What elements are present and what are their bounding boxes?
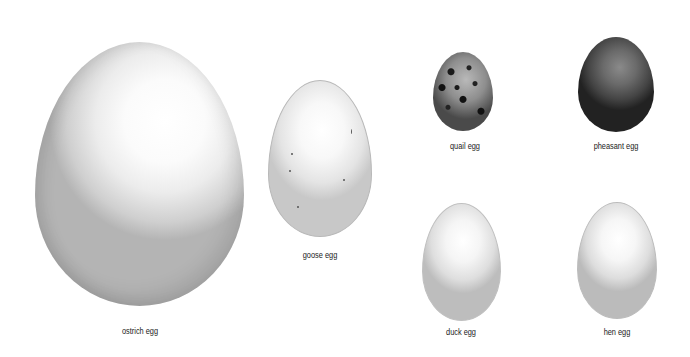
duck-egg-label: duck egg [446, 327, 476, 337]
speckle [291, 153, 293, 155]
goose-egg-image [268, 80, 372, 237]
duck-egg-image [422, 203, 501, 321]
pheasant-egg-label: pheasant egg [594, 141, 639, 151]
quail-egg-label: quail egg [450, 141, 480, 151]
quail-egg-image [433, 52, 493, 131]
goose-egg-label: goose egg [303, 250, 337, 260]
speckle [351, 129, 352, 134]
pheasant-egg-image [578, 37, 654, 132]
hen-egg-image [577, 202, 657, 319]
speckle [289, 170, 291, 172]
ostrich-egg-image [35, 42, 244, 306]
hen-egg-label: hen egg [604, 327, 631, 337]
ostrich-egg-label: ostrich egg [122, 326, 158, 336]
speckle [343, 179, 345, 181]
speckle [297, 206, 299, 208]
